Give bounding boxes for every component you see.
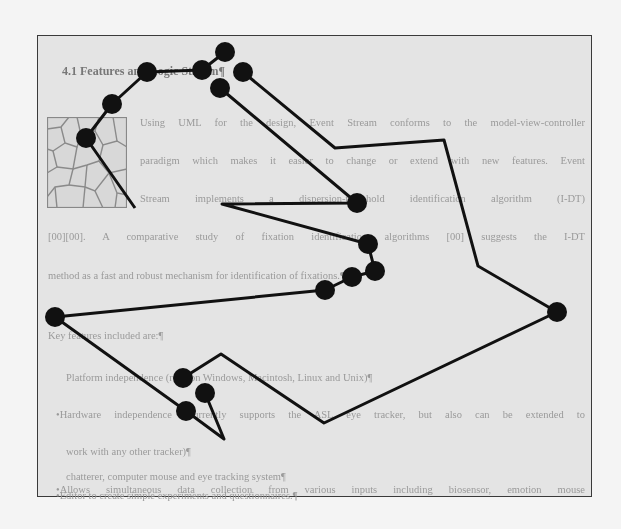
fixation-point bbox=[315, 280, 335, 300]
fixation-point bbox=[192, 60, 212, 80]
fixation-point bbox=[215, 42, 235, 62]
fixation-point bbox=[347, 193, 367, 213]
fixation-point bbox=[76, 128, 96, 148]
fixation-point bbox=[45, 307, 65, 327]
fixation-point bbox=[102, 94, 122, 114]
eye-tracking-scanpath-overlay bbox=[0, 0, 621, 529]
fixation-point bbox=[358, 234, 378, 254]
fixation-point bbox=[173, 368, 193, 388]
fixation-point bbox=[365, 261, 385, 281]
fixation-point bbox=[195, 383, 215, 403]
fixation-point bbox=[342, 267, 362, 287]
fixation-point bbox=[176, 401, 196, 421]
fixation-point bbox=[233, 62, 253, 82]
fixation-point bbox=[210, 78, 230, 98]
fixation-point bbox=[137, 62, 157, 82]
fixation-point bbox=[547, 302, 567, 322]
